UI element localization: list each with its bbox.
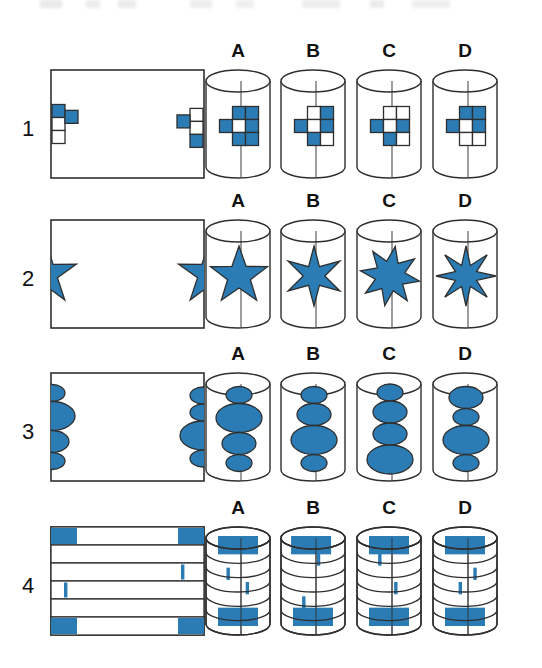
row-3: 3ABCD [0,358,542,508]
cylinder-option-2-C[interactable] [356,219,422,329]
cylinder-option-4-D[interactable] [432,526,498,636]
option-label-1-B: B [293,41,333,60]
option-label-2-A: A [218,191,258,210]
cylinder-option-1-A[interactable] [205,69,271,179]
row-number-1: 1 [22,118,34,140]
option-label-1-C: C [369,41,409,60]
cylinder-option-2-D[interactable] [432,219,498,329]
cylinder-option-4-C[interactable] [356,526,422,636]
cylinder-option-3-D[interactable] [432,372,498,482]
flat-pattern-1 [50,69,205,179]
row-1: 1ABCD [0,55,542,205]
cylinder-option-1-D[interactable] [432,69,498,179]
row-number-4: 4 [22,575,34,597]
option-label-4-D: D [445,498,485,517]
cylinder-option-3-A[interactable] [205,372,271,482]
cylinder-option-1-B[interactable] [280,69,346,179]
option-label-3-C: C [369,344,409,363]
option-label-3-D: D [445,344,485,363]
option-label-2-C: C [369,191,409,210]
option-label-2-B: B [293,191,333,210]
cut-off-header-text [40,0,480,8]
option-label-1-A: A [218,41,258,60]
cylinder-option-4-B[interactable] [280,526,346,636]
cylinder-option-3-C[interactable] [356,372,422,482]
row-number-3: 3 [22,421,34,443]
flat-pattern-2 [50,219,205,329]
row-number-2: 2 [22,268,34,290]
option-label-4-C: C [369,498,409,517]
flat-pattern-4 [50,526,205,636]
row-2: 2ABCD [0,205,542,355]
option-label-3-B: B [293,344,333,363]
cylinder-option-3-B[interactable] [280,372,346,482]
cylinder-option-4-A[interactable] [205,526,271,636]
option-label-2-D: D [445,191,485,210]
option-label-4-A: A [218,498,258,517]
option-label-3-A: A [218,344,258,363]
cylinder-option-2-B[interactable] [280,219,346,329]
option-label-4-B: B [293,498,333,517]
worksheet-page: 1ABCD2ABCD3ABCD4ABCD [0,0,542,668]
option-label-1-D: D [445,41,485,60]
cylinder-option-2-A[interactable] [205,219,271,329]
row-4: 4ABCD [0,512,542,662]
cylinder-option-1-C[interactable] [356,69,422,179]
flat-pattern-3 [50,372,205,482]
